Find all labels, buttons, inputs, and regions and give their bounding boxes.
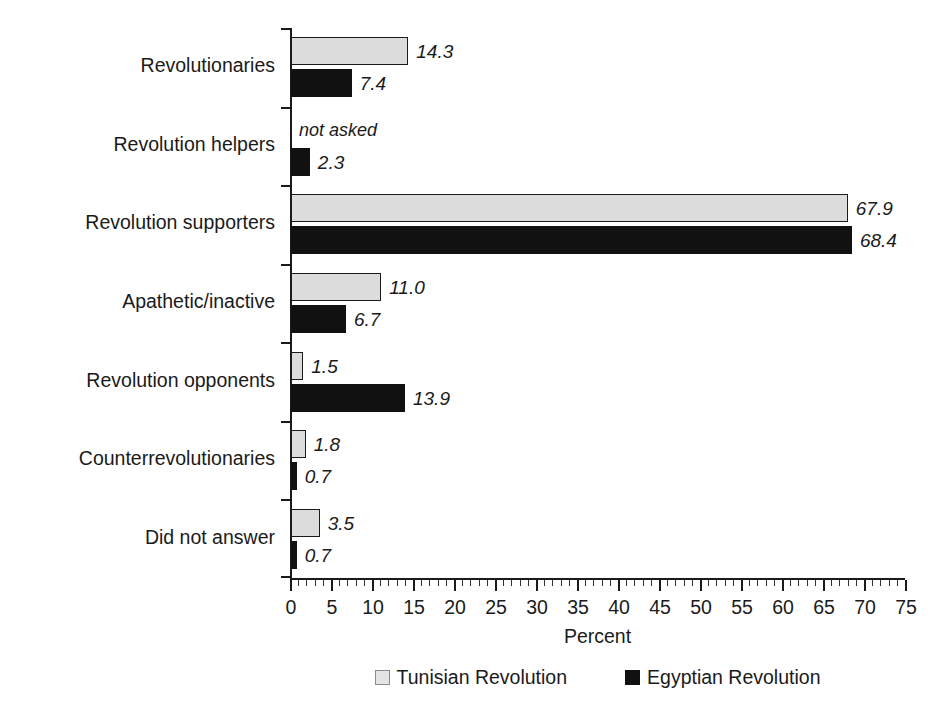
x-axis-tick-label: 40 [608, 596, 630, 619]
x-axis-minor-tick [684, 580, 685, 586]
bar-value-not-asked: not asked [299, 121, 377, 139]
bar [291, 305, 346, 333]
x-axis-minor-tick [323, 580, 324, 586]
x-axis-minor-tick [405, 580, 406, 586]
legend-swatch-dark [625, 670, 640, 685]
x-axis-minor-tick [733, 580, 734, 586]
legend-item[interactable]: Egyptian Revolution [625, 666, 820, 689]
x-axis-tick-label: 60 [772, 596, 794, 619]
x-axis-minor-tick [511, 580, 512, 586]
x-axis-minor-tick [651, 580, 652, 586]
y-axis-tick [281, 28, 290, 30]
x-axis-minor-tick [692, 580, 693, 586]
bar [291, 430, 306, 458]
bar [291, 148, 310, 176]
category-label: Apathetic/inactive [0, 291, 275, 312]
x-axis-minor-tick [429, 580, 430, 586]
x-axis-major-tick [741, 580, 743, 591]
y-axis-tick [281, 264, 290, 266]
y-axis-tick [281, 499, 290, 501]
x-axis-minor-tick [569, 580, 570, 586]
x-axis-tick-label: 65 [813, 596, 835, 619]
x-axis-title: Percent [290, 625, 905, 648]
x-axis-minor-tick [503, 580, 504, 586]
category-label: Did not answer [0, 527, 275, 548]
legend-swatch-light [375, 670, 390, 685]
bar [291, 352, 303, 380]
legend-label: Tunisian Revolution [397, 666, 568, 689]
x-axis-minor-tick [757, 580, 758, 586]
x-axis-minor-tick [347, 580, 348, 586]
x-axis-minor-tick [593, 580, 594, 586]
x-axis-minor-tick [856, 580, 857, 586]
plot-area: 14.3not asked67.911.01.51.83.57.42.368.4… [290, 28, 905, 578]
x-axis-major-tick [577, 580, 579, 591]
category-label: Counterrevolutionaries [0, 448, 275, 469]
bar [291, 273, 381, 301]
x-axis-major-tick [413, 580, 415, 591]
x-axis-minor-tick [446, 580, 447, 586]
x-axis-minor-tick [667, 580, 668, 586]
x-axis-minor-tick [602, 580, 603, 586]
x-axis-minor-tick [725, 580, 726, 586]
legend-label: Egyptian Revolution [647, 666, 820, 689]
x-axis-minor-tick [397, 580, 398, 586]
x-axis-minor-tick [585, 580, 586, 586]
bar-value-label: 7.4 [360, 74, 386, 93]
x-axis-major-tick [536, 580, 538, 591]
x-axis-tick-label: 5 [327, 596, 338, 619]
legend-item[interactable]: Tunisian Revolution [375, 666, 568, 689]
bar [291, 69, 352, 97]
x-axis-minor-tick [561, 580, 562, 586]
y-axis-tick [281, 185, 290, 187]
bar-value-label: 67.9 [856, 199, 893, 218]
x-axis-minor-tick [470, 580, 471, 586]
x-axis-tick-label: 20 [444, 596, 466, 619]
category-label: Revolution supporters [0, 212, 275, 233]
category-label: Revolutionaries [0, 55, 275, 76]
x-axis-minor-tick [552, 580, 553, 586]
x-axis-minor-tick [421, 580, 422, 586]
x-axis-minor-tick [544, 580, 545, 586]
x-axis-tick-label: 10 [362, 596, 384, 619]
x-axis-tick-label: 15 [403, 596, 425, 619]
x-axis-tick-label: 45 [649, 596, 671, 619]
bar-value-label: 1.5 [311, 357, 337, 376]
x-axis-major-tick [331, 580, 333, 591]
bar-value-label: 3.5 [328, 514, 354, 533]
bar-value-label: 0.7 [305, 546, 331, 565]
x-axis-minor-tick [306, 580, 307, 586]
x-axis-minor-tick [364, 580, 365, 586]
bar-value-label: 0.7 [305, 467, 331, 486]
x-axis-minor-tick [298, 580, 299, 586]
x-axis-minor-tick [487, 580, 488, 586]
x-axis-minor-tick [839, 580, 840, 586]
bar [291, 541, 297, 569]
bar [291, 226, 852, 254]
x-axis-tick-label: 55 [731, 596, 753, 619]
x-axis-minor-tick [880, 580, 881, 586]
x-axis-minor-tick [388, 580, 389, 586]
x-axis-major-tick [700, 580, 702, 591]
x-axis-minor-tick [889, 580, 890, 586]
category-label: Revolution opponents [0, 370, 275, 391]
x-axis-major-tick [454, 580, 456, 591]
x-axis-major-tick [905, 580, 907, 591]
chart-legend: Tunisian RevolutionEgyptian Revolution [290, 666, 905, 689]
bar-value-label: 11.0 [389, 278, 425, 297]
x-axis-minor-tick [774, 580, 775, 586]
bar-value-label: 13.9 [413, 389, 450, 408]
x-axis-minor-tick [520, 580, 521, 586]
x-axis-minor-tick [438, 580, 439, 586]
x-axis-minor-tick [380, 580, 381, 586]
x-axis-minor-tick [848, 580, 849, 586]
x-axis-minor-tick [462, 580, 463, 586]
x-axis-tick-label: 70 [854, 596, 876, 619]
bar [291, 194, 848, 222]
bar-chart: RevolutionariesRevolution helpersRevolut… [0, 0, 948, 715]
bar-value-label: 2.3 [318, 153, 344, 172]
bar-value-label: 1.8 [314, 435, 340, 454]
x-axis-minor-tick [807, 580, 808, 586]
x-axis-minor-tick [528, 580, 529, 586]
bar [291, 462, 297, 490]
